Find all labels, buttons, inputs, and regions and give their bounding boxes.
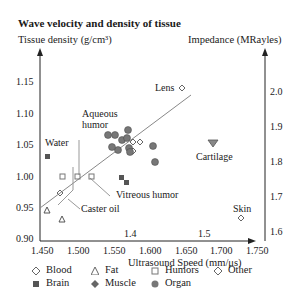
- x-tick: 1.500: [67, 245, 90, 256]
- impedance-label: 1.4: [124, 228, 137, 239]
- annotation-aqueous: Aqueous: [82, 108, 118, 119]
- y-tick: 0.90: [16, 233, 34, 244]
- legend-muscle: Muscle: [91, 277, 136, 288]
- x-tick: 1.650: [175, 245, 198, 256]
- annotation-lens: Lens: [155, 82, 174, 93]
- annotation-water: Water: [45, 137, 69, 148]
- y-right-tick: 1.7: [270, 191, 283, 202]
- y-tick: 1.00: [16, 171, 34, 182]
- x-tick: 1.600: [139, 245, 162, 256]
- x-tick: 1.450: [31, 245, 54, 256]
- y-right-tick: 1.6: [270, 226, 283, 237]
- y-tick: 1.10: [16, 108, 34, 119]
- legend-blood: Blood: [32, 264, 72, 275]
- annotation-humor: humor: [82, 119, 108, 130]
- legend-humors: Humors: [151, 264, 199, 275]
- y-tick: 0.95: [16, 202, 34, 213]
- legend-fat: Fat: [91, 264, 118, 275]
- annotation-caster: Caster oil: [81, 203, 120, 214]
- annotation-cartilage: Cartilage: [196, 151, 233, 162]
- y-right-tick: 2.0: [270, 86, 283, 97]
- y-right-tick: 1.9: [270, 121, 283, 132]
- x-tick: 1.550: [103, 245, 126, 256]
- annotation-vitreous: Vitreous humor: [116, 189, 178, 200]
- y-tick: 1.15: [16, 76, 34, 87]
- impedance-label: 1.5: [198, 228, 211, 239]
- legend-other: Other: [214, 264, 252, 275]
- legend-brain: Brain: [32, 277, 69, 288]
- x-tick: 1.750: [246, 245, 269, 256]
- legend-organ: Organ: [151, 277, 191, 288]
- annotation-skin: Skin: [233, 203, 251, 214]
- x-tick: 1.700: [210, 245, 233, 256]
- y-right-tick: 1.8: [270, 156, 283, 167]
- y-tick: 1.05: [16, 139, 34, 150]
